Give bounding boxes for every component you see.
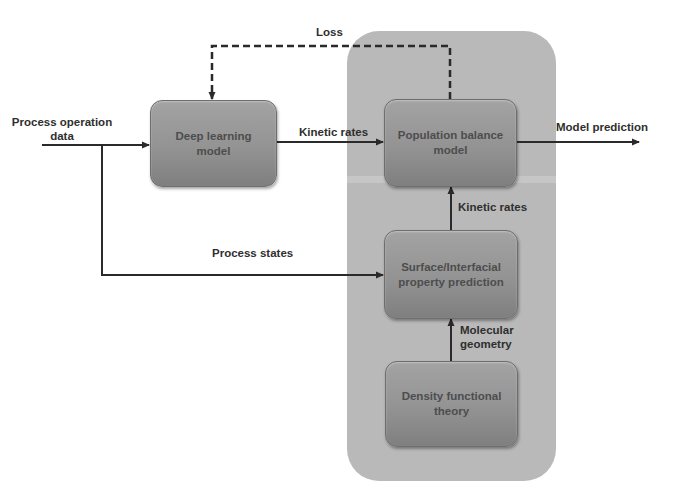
population-balance-model-box: Population balance model: [384, 99, 517, 187]
process-operation-data-label: Process operation data: [0, 115, 124, 143]
process-states-label: Process states: [212, 246, 293, 260]
deep-learning-model-label: Deep learning model: [163, 129, 265, 159]
molecular-geometry-label: Molecular geometry: [460, 323, 514, 351]
molecular-geometry-line1: Molecular: [460, 323, 514, 337]
connector-lines: [0, 0, 678, 499]
population-balance-model-label: Population balance model: [385, 128, 516, 158]
density-functional-theory-box: Density functional theory: [385, 361, 518, 447]
input-label-line2: data: [0, 129, 124, 143]
loss-feedback-arrow: [212, 46, 450, 99]
diagram-canvas: Deep learning model Population balance m…: [0, 0, 678, 499]
surface-property-prediction-label: Surface/Interfacial property prediction: [385, 260, 517, 290]
input-label-line1: Process operation: [0, 115, 124, 129]
surface-property-prediction-box: Surface/Interfacial property prediction: [384, 230, 518, 319]
model-prediction-label: Model prediction: [556, 120, 648, 134]
density-functional-theory-label: Density functional theory: [386, 389, 517, 419]
kinetic-rates-label: Kinetic rates: [299, 125, 368, 139]
kinetic-rates-up-label: Kinetic rates: [458, 200, 527, 214]
deep-learning-model-box: Deep learning model: [150, 100, 277, 187]
molecular-geometry-line2: geometry: [460, 337, 514, 351]
loss-label: Loss: [316, 25, 343, 39]
